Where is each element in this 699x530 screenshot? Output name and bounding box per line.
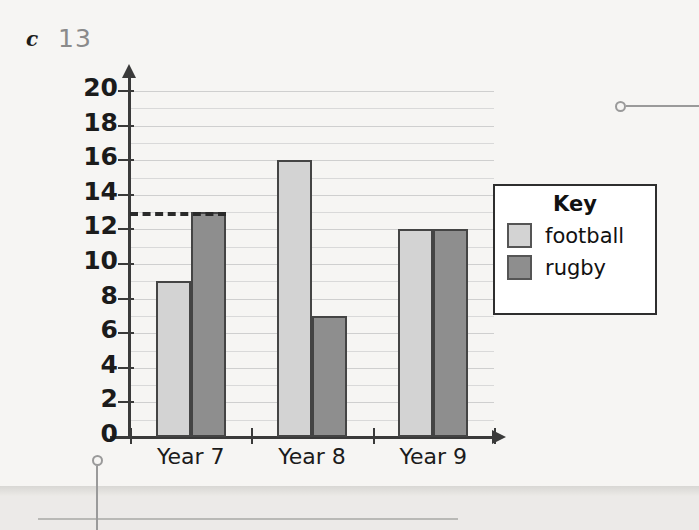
annotation-dashed-line xyxy=(130,212,226,216)
y-axis-tick-label: 12 xyxy=(70,211,118,240)
bar-year-7-rugby xyxy=(191,212,226,437)
gridline xyxy=(130,160,494,161)
x-axis-label-year-7: Year 7 xyxy=(130,444,251,469)
legend-entry-football: football xyxy=(507,223,655,248)
chart-legend: Key footballrugby xyxy=(493,184,657,315)
y-axis-tick xyxy=(118,228,134,230)
x-axis-tick xyxy=(494,428,496,444)
y-axis-tick-label: 16 xyxy=(70,142,118,171)
gridline xyxy=(130,195,494,196)
y-axis-arrow-icon xyxy=(122,64,136,78)
gridline xyxy=(130,143,494,144)
y-axis-tick xyxy=(118,194,134,196)
y-axis-tick-label: 10 xyxy=(70,246,118,275)
legend-entries: footballrugby xyxy=(495,223,655,280)
y-axis-tick xyxy=(118,159,134,161)
y-axis-tick xyxy=(118,401,134,403)
gridline xyxy=(130,108,494,109)
x-axis-label-year-9: Year 9 xyxy=(373,444,494,469)
x-axis-tick xyxy=(130,428,132,444)
y-axis-tick-label: 18 xyxy=(70,108,118,137)
gridline xyxy=(130,178,494,179)
question-part-label: c xyxy=(26,27,38,51)
y-axis-line xyxy=(128,76,131,438)
y-axis-tick-labels: 02468101214161820 xyxy=(58,0,118,460)
y-axis-tick-label: 4 xyxy=(70,350,118,379)
bar-year-9-rugby xyxy=(433,229,468,437)
y-axis-tick-label: 8 xyxy=(70,281,118,310)
bar-year-8-football xyxy=(277,160,312,437)
bottom-left-callout-leader-line xyxy=(96,466,98,530)
y-axis-tick-label: 14 xyxy=(70,177,118,206)
bottom-rule-line xyxy=(38,518,458,520)
bar-year-7-football xyxy=(156,281,191,437)
right-callout-leader-line xyxy=(626,105,699,107)
x-axis-tick xyxy=(251,428,253,444)
bar-year-9-football xyxy=(398,229,433,437)
y-axis-tick-label: 2 xyxy=(70,384,118,413)
y-axis-tick-label: 6 xyxy=(70,315,118,344)
right-callout-dot-icon xyxy=(615,101,626,112)
y-axis-tick xyxy=(118,125,134,127)
legend-swatch-rugby xyxy=(507,255,532,280)
legend-entry-rugby: rugby xyxy=(507,255,655,280)
x-axis-label-year-8: Year 8 xyxy=(251,444,372,469)
bottom-left-callout-dot-icon xyxy=(92,455,103,466)
legend-swatch-football xyxy=(507,223,532,248)
page-edge-shadow xyxy=(0,486,699,496)
x-axis-tick xyxy=(373,428,375,444)
legend-title: Key xyxy=(495,192,655,216)
gridline xyxy=(130,126,494,127)
y-axis-tick-label: 20 xyxy=(70,73,118,102)
bar-year-8-rugby xyxy=(312,316,347,437)
y-axis-tick xyxy=(118,332,134,334)
legend-label-football: football xyxy=(545,224,624,248)
y-axis-tick xyxy=(118,367,134,369)
y-axis-tick xyxy=(118,90,134,92)
y-axis-tick xyxy=(118,298,134,300)
y-axis-tick-label: 0 xyxy=(70,419,118,448)
y-axis-tick xyxy=(118,263,134,265)
gridline xyxy=(130,91,494,92)
legend-label-rugby: rugby xyxy=(545,256,606,280)
page-lower-margin xyxy=(0,496,699,530)
